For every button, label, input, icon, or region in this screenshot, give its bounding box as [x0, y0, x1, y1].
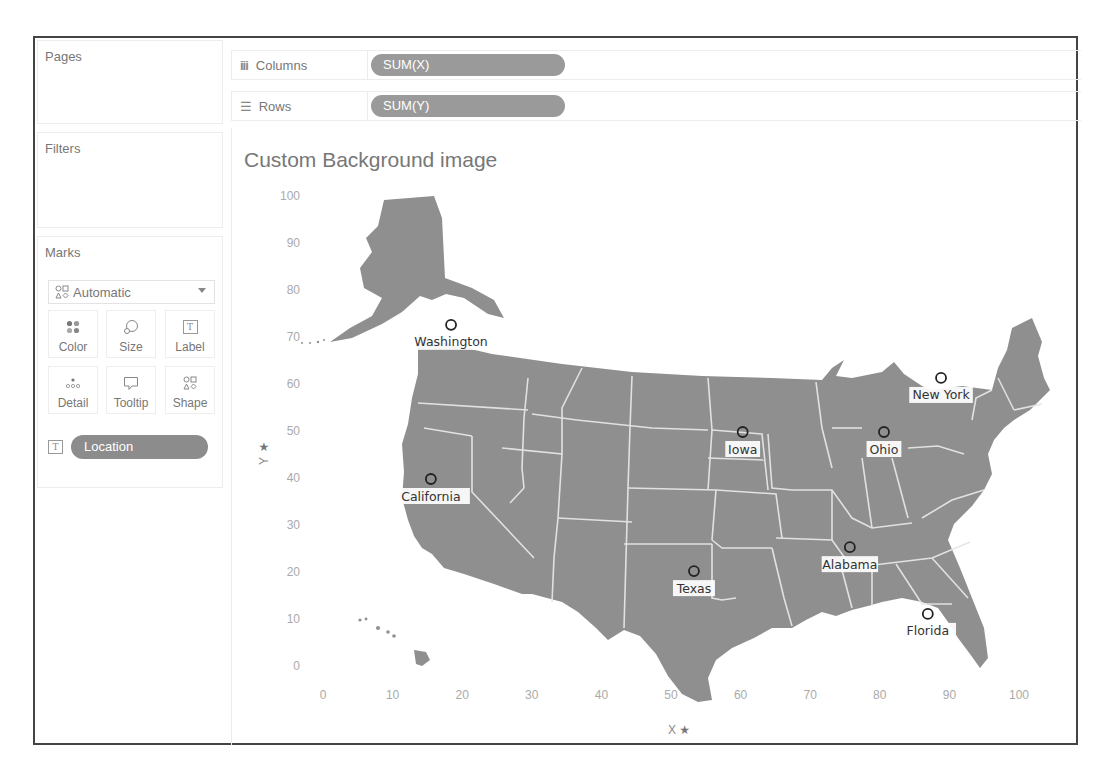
circle-mark-icon: [446, 320, 456, 330]
mark-label: Alabama: [822, 557, 877, 572]
mark-label: California: [401, 489, 460, 504]
map-mark[interactable]: New York: [909, 373, 973, 403]
columns-shelf-label: iii Columns: [232, 51, 368, 79]
columns-label: Columns: [256, 58, 307, 73]
filters-card[interactable]: Filters: [37, 132, 223, 228]
mark-label: New York: [912, 387, 970, 402]
size-label: Size: [119, 340, 142, 354]
mark-label: Iowa: [728, 442, 757, 457]
label-label: Label: [175, 340, 204, 354]
text-label-icon[interactable]: T: [48, 440, 63, 454]
sum-x-pill[interactable]: SUM(X): [371, 54, 565, 76]
filters-title: Filters: [45, 141, 80, 156]
detail-label: Detail: [58, 396, 89, 410]
size-icon: [123, 316, 139, 338]
mark-label: Ohio: [870, 442, 899, 457]
tooltip-label: Tooltip: [114, 396, 149, 410]
automatic-shapes-icon: [55, 285, 69, 299]
shape-icon: [183, 372, 197, 394]
chart-view[interactable]: Custom Background image 1009080706050403…: [231, 128, 1082, 745]
marks-title: Marks: [45, 245, 80, 260]
tooltip-button[interactable]: Tooltip: [106, 366, 156, 414]
circle-mark-icon: [936, 373, 946, 383]
mark-label: Florida: [907, 623, 950, 638]
mark-label: Texas: [676, 581, 712, 596]
circle-mark-icon: [923, 609, 933, 619]
location-pill[interactable]: Location: [71, 435, 208, 459]
sum-y-pill[interactable]: SUM(Y): [371, 95, 565, 117]
columns-icon: iii: [240, 58, 248, 73]
mark-type-value: Automatic: [73, 285, 131, 300]
background-map-image: WashingtonCaliforniaIowaOhioNew YorkTexa…: [232, 128, 1082, 745]
shape-label: Shape: [173, 396, 208, 410]
rows-icon: ☰: [240, 99, 251, 114]
marks-card: Marks Automatic Color Size T La: [37, 236, 223, 488]
color-dots-icon: [66, 316, 80, 338]
shape-button[interactable]: Shape: [165, 366, 215, 414]
tooltip-icon: [123, 372, 139, 394]
label-button[interactable]: T Label: [165, 310, 215, 358]
pages-title: Pages: [45, 49, 82, 64]
location-field-row: T Location: [48, 435, 208, 459]
rows-shelf-label: ☰ Rows: [232, 92, 368, 120]
mark-label: Washington: [414, 334, 487, 349]
color-button[interactable]: Color: [48, 310, 98, 358]
tableau-workspace: Pages Filters Marks Automatic Color: [33, 36, 1078, 745]
pages-card[interactable]: Pages: [37, 40, 223, 124]
rows-shelf[interactable]: ☰ Rows SUM(Y): [231, 91, 1081, 121]
map-mark[interactable]: Washington: [412, 320, 490, 350]
rows-label: Rows: [259, 99, 292, 114]
detail-icon: [65, 372, 81, 394]
color-label: Color: [59, 340, 88, 354]
chevron-down-icon: [198, 288, 206, 293]
mark-type-dropdown[interactable]: Automatic: [48, 280, 215, 304]
detail-button[interactable]: Detail: [48, 366, 98, 414]
label-t-icon: T: [183, 316, 198, 338]
size-button[interactable]: Size: [106, 310, 156, 358]
columns-shelf[interactable]: iii Columns SUM(X): [231, 50, 1081, 80]
